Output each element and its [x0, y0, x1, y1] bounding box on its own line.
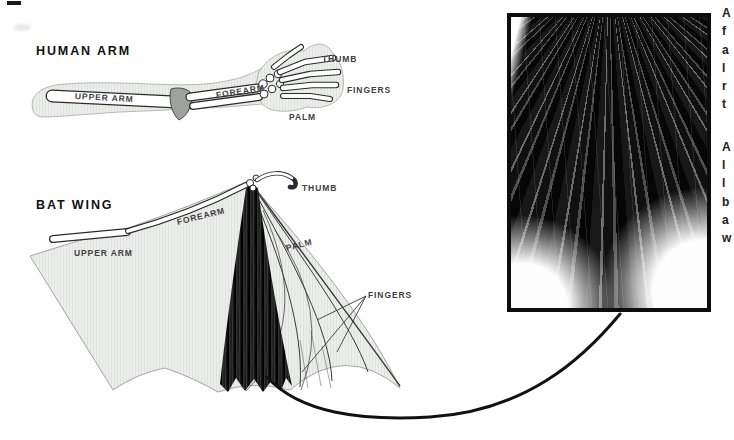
text-line: A	[722, 140, 731, 154]
bat-thumb-label: THUMB	[302, 183, 337, 193]
human-arm-title: HUMAN ARM	[36, 44, 131, 58]
human-palm-label: PALM	[289, 112, 316, 122]
bat-wing-title: BAT WING	[36, 198, 113, 212]
text-line: a	[722, 213, 729, 227]
text-line: w	[722, 231, 731, 245]
bat-thumb-claw	[257, 173, 296, 187]
text-line: a	[722, 43, 729, 57]
text-line: b	[722, 195, 729, 209]
human-thumb-label: THUMB	[322, 54, 357, 64]
bat-membrane-photo-inset	[507, 13, 711, 312]
text-line: l	[722, 176, 725, 190]
human-fingers-label: FINGERS	[347, 85, 391, 95]
text-line: A	[722, 6, 731, 20]
text-line: l	[722, 158, 725, 172]
text-line: f	[722, 24, 726, 38]
text-line: t	[722, 97, 726, 111]
text-line: r	[722, 79, 727, 93]
bat-upper-arm-label: UPPER ARM	[74, 248, 133, 258]
text-line: l	[722, 61, 725, 75]
book-spread-diagram: HUMAN ARM UPPER ARM FOREARM THUMB FINGER…	[0, 0, 734, 440]
bat-fingers-label: FINGERS	[368, 290, 412, 300]
